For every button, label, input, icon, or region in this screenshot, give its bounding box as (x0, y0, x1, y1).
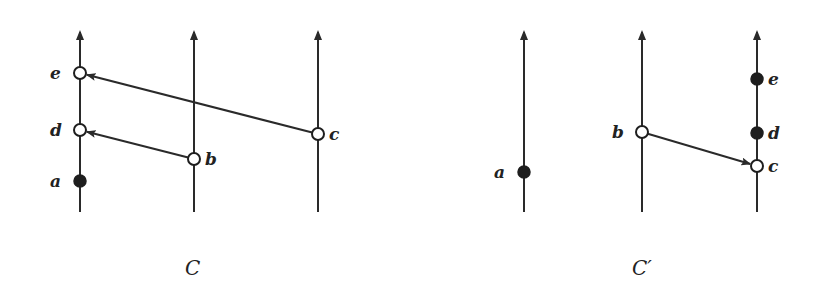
arrow-up-icon (76, 30, 84, 40)
diagram-c-event-a-filled-circle-icon (74, 175, 86, 187)
diagram-c-prime-event-label-d: d (768, 123, 780, 143)
diagram-c-message-c-to-e (87, 75, 312, 133)
diagram-c-event-label-c: c (329, 124, 340, 144)
diagram-c-prime-event-label-c: c (768, 156, 779, 176)
diagram-c-prime-event-label-b: b (612, 122, 624, 142)
diagram-c-prime-event-e-filled-circle-icon (751, 73, 763, 85)
diagram-c-prime-event-label-a: a (494, 162, 505, 182)
space-time-diagrams: edabcCabedcC′ (0, 0, 824, 308)
arrow-up-icon (314, 30, 322, 40)
diagram-c-prime-caption: C′ (632, 256, 652, 280)
arrow-up-icon (638, 30, 646, 40)
arrow-up-icon (753, 30, 761, 40)
diagram-c-prime-event-a-filled-circle-icon (518, 166, 530, 178)
diagram-c-prime-event-b-open-circle-icon (636, 126, 648, 138)
diagram-c-prime-event-d-filled-circle-icon (751, 127, 763, 139)
diagram-c-prime-event-label-e: e (768, 69, 779, 89)
diagram-c-prime-message-b-to-c (648, 134, 751, 164)
diagram-c-event-b-open-circle-icon (188, 153, 200, 165)
diagram-c-message-b-to-d (87, 132, 188, 158)
diagram-c-event-c-open-circle-icon (312, 128, 324, 140)
diagram-c-event-label-d: d (50, 120, 62, 140)
diagram-c-event-d-open-circle-icon (74, 124, 86, 136)
arrow-up-icon (520, 30, 528, 40)
diagram-c-event-label-a: a (50, 171, 61, 191)
diagram-c-caption: C (185, 256, 200, 280)
diagram-c-event-label-b: b (205, 149, 217, 169)
diagram-c-event-e-open-circle-icon (74, 67, 86, 79)
arrow-up-icon (190, 30, 198, 40)
diagram-c-prime-event-c-open-circle-icon (751, 160, 763, 172)
diagram-c-event-label-e: e (50, 63, 61, 83)
